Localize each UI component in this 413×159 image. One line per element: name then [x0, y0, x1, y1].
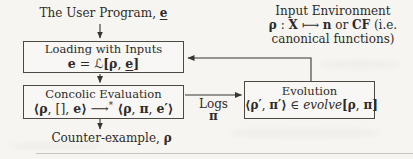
- logs-pi-symbol: π: [185, 109, 242, 123]
- script-L-symbol: ℒ: [94, 56, 103, 71]
- scan-artifact: [320, 60, 400, 69]
- loading-box: Loading with Inputs e = ℒ[ρ, e]: [23, 41, 184, 73]
- page-rule: [36, 153, 413, 154]
- user-program-var: e: [160, 6, 168, 20]
- counter-example-text: Counter-example,: [51, 131, 163, 145]
- mapsto-symbol: ⟼: [298, 18, 323, 32]
- user-program-text: The User Program,: [40, 6, 160, 20]
- evolution-box-title: Evolution: [245, 85, 374, 98]
- input-environment-line2: ρ : X ⟼ n or CF (i.e.: [256, 18, 410, 32]
- evolution-box-formula: ⟨ρ′, π′⟩ ∈ evolve[ρ, π]: [245, 98, 374, 113]
- input-environment-note: Input Environment ρ : X ⟼ n or CF (i.e. …: [256, 4, 410, 46]
- arrow-evolution-to-loading: [188, 58, 311, 81]
- user-program-label: The User Program, e: [23, 6, 184, 20]
- scan-artifact: [230, 128, 380, 138]
- counter-example-var: ρ: [164, 131, 172, 145]
- figure-concolic-evaluation-diagram: The User Program, e Input Environment ρ …: [0, 0, 413, 159]
- counter-example-label: Counter-example, ρ: [31, 131, 192, 145]
- long-arrow-symbol: ⟶: [87, 101, 109, 116]
- concolic-box-formula: ⟨ρ, [], e⟩ ⟶* ⟨ρ, π, e′⟩: [24, 101, 183, 116]
- logs-edge-label: Logs π: [185, 97, 242, 123]
- input-environment-line3: canonical functions): [256, 32, 410, 46]
- concolic-box-title: Concolic Evaluation: [24, 88, 183, 101]
- loading-box-formula: e = ℒ[ρ, e]: [24, 56, 183, 71]
- concolic-evaluation-box: Concolic Evaluation ⟨ρ, [], e⟩ ⟶* ⟨ρ, π,…: [23, 85, 184, 119]
- element-of-symbol: ∈: [287, 98, 304, 112]
- evolution-box: Evolution ⟨ρ′, π′⟩ ∈ evolve[ρ, π]: [244, 81, 375, 119]
- input-environment-line1: Input Environment: [256, 4, 410, 18]
- loading-box-title: Loading with Inputs: [24, 43, 183, 56]
